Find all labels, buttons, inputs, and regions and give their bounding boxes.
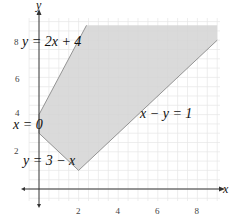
x-tick-8: 8 bbox=[195, 206, 200, 216]
label-x-minus-y-eq-1: x − y = 1 bbox=[139, 106, 192, 121]
region-plot: y x 2 4 6 8 8 6 4 2 y = 2x + 4 x = 0 y =… bbox=[0, 0, 230, 217]
y-axis-down-arrow-icon bbox=[37, 204, 41, 208]
y-axis-label: y bbox=[35, 0, 42, 12]
x-axis-label: x bbox=[222, 182, 229, 196]
x-tick-6: 6 bbox=[155, 206, 160, 216]
x-axis-left-arrow-icon bbox=[21, 187, 25, 191]
y-tick-6: 6 bbox=[15, 74, 20, 84]
x-tick-2: 2 bbox=[76, 206, 81, 216]
label-x-eq-0: x = 0 bbox=[12, 117, 43, 132]
y-tick-8: 8 bbox=[14, 37, 19, 47]
y-tick-2: 2 bbox=[14, 146, 19, 156]
x-tick-4: 4 bbox=[116, 206, 121, 216]
label-y-eq-3-minus-x: y = 3 − x bbox=[21, 153, 76, 168]
label-y-eq-2x-plus-4: y = 2x + 4 bbox=[20, 34, 81, 49]
